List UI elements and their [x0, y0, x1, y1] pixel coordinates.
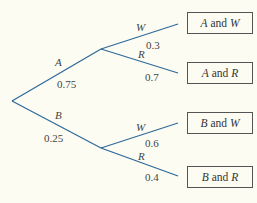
event-label-A-R: R [138, 48, 145, 60]
event-label-B: B [55, 109, 62, 121]
outcome-conj: and [212, 171, 229, 183]
prob-label-A-R: 0.7 [145, 71, 159, 83]
outcome-second: R [231, 67, 238, 79]
outcome-box-A-and-W: A and W [187, 12, 253, 34]
outcome-conj: and [210, 117, 227, 129]
event-label-A: A [55, 56, 62, 68]
prob-label-B-R: 0.4 [145, 171, 159, 183]
prob-label-B-W: 0.6 [145, 137, 159, 149]
outcome-second: W [230, 117, 240, 129]
event-label-A-W: W [136, 21, 145, 33]
event-label-B-W: W [136, 121, 145, 133]
outcome-first: B [202, 171, 209, 183]
outcome-second: R [231, 171, 238, 183]
prob-label-A: 0.75 [57, 78, 76, 90]
outcome-first: A [202, 67, 209, 79]
outcome-box-B-and-W: B and W [187, 112, 253, 134]
event-label-B-R: R [138, 150, 145, 162]
outcome-second: W [230, 17, 240, 29]
prob-label-A-W: 0.3 [146, 39, 160, 51]
outcome-first: A [201, 17, 208, 29]
outcome-conj: and [212, 67, 229, 79]
outcome-box-B-and-R: B and R [187, 166, 253, 188]
outcome-conj: and [210, 17, 227, 29]
prob-label-B: 0.25 [44, 132, 63, 144]
outcome-first: B [201, 117, 208, 129]
outcome-box-A-and-R: A and R [187, 62, 253, 84]
